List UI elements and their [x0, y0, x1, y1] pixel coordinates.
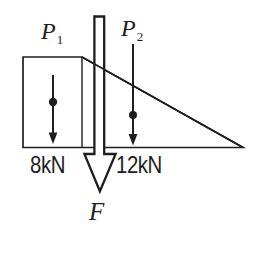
p2-value-label: 12kN	[116, 153, 162, 177]
p2-arrowhead-icon	[129, 134, 138, 146]
p1-force-arrow	[49, 75, 58, 144]
f-resultant-label: F	[89, 199, 104, 224]
p1-centroid-dot	[49, 98, 57, 106]
statics-load-diagram: P1 P2 8kN 12kN F	[0, 0, 278, 253]
p2-force-arrow	[129, 44, 138, 146]
p2-subscript: 2	[137, 29, 144, 44]
p1-value-label: 8kN	[30, 153, 65, 177]
p1-label: P1	[41, 19, 63, 46]
p2-label: P2	[121, 16, 143, 43]
p1-symbol: P	[41, 18, 56, 44]
p1-subscript: 1	[57, 32, 64, 47]
hypotenuse-overlay-line	[82, 57, 243, 148]
f-resultant-hollow-arrow	[84, 17, 115, 192]
p1-arrowhead-icon	[49, 133, 58, 145]
p2-centroid-dot	[129, 111, 137, 119]
p2-symbol: P	[121, 15, 136, 41]
